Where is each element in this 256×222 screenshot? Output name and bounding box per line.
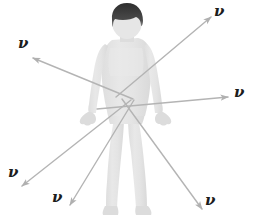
chest-shading [109, 48, 144, 76]
nu-label-lower-left-near: ν [52, 190, 62, 205]
nu-label-upper-left: ν [18, 36, 28, 51]
human-body-silhouette [80, 3, 172, 215]
nu-label-lower-right: ν [205, 193, 215, 208]
neutrino-body-figure: ν ν ν ν ν ν [0, 0, 256, 222]
left-hand [80, 112, 96, 126]
right-foot [135, 206, 151, 215]
right-leg [128, 118, 147, 208]
nu-label-upper-right: ν [214, 4, 224, 19]
right-hand [155, 112, 171, 126]
nu-label-right: ν [234, 85, 244, 100]
left-foot [103, 206, 119, 215]
figure-canvas [0, 0, 256, 222]
nu-label-lower-left-far: ν [8, 165, 18, 180]
arrow-lower-left-near [70, 100, 134, 205]
